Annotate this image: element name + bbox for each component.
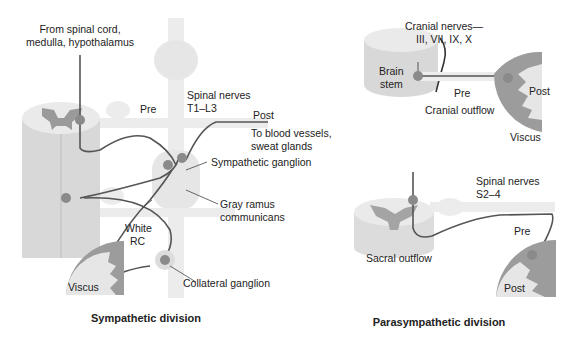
label-post: Post [253,109,274,121]
label-cranial-numbers: III, VII, IX, X [416,33,472,45]
label-rc: RC [130,235,146,247]
sympathetic-division: From spinal cord, medulla, hypothalamus … [22,18,332,324]
ganglion-neuron-1 [177,153,187,163]
label-pre-sacral: Pre [514,225,531,237]
spinal-nerve-band [100,118,268,128]
autonomic-nervous-system-diagram: From spinal cord, medulla, hypothalamus … [0,0,577,339]
parasympathetic-division: Cranial nerves— III, VII, IX, X Brain st… [354,20,556,328]
label-blood-vessels: To blood vessels, [251,127,332,139]
label-pre-cranial: Pre [454,87,471,99]
preganglionic-neuron [75,115,85,125]
label-pre: Pre [140,103,157,115]
label-sympathetic-ganglion: Sympathetic ganglion [211,156,312,168]
label-viscus: Viscus [68,281,99,293]
label-brain: Brain [379,65,404,77]
label-sweat-glands: sweat glands [251,140,312,152]
label-from-spinal-cord-2: medulla, hypothalamus [26,36,134,48]
label-white: White [125,222,152,234]
caption-parasympathetic: Parasympathetic division [373,316,506,328]
label-sacral-outflow: Sacral outflow [366,252,432,264]
label-viscus-cranial: Viscus [510,131,541,143]
label-from-spinal-cord-1: From spinal cord, [39,23,120,35]
lateral-horn-neuron [61,193,71,203]
label-gray-ramus: Gray ramus [220,198,275,210]
label-collateral-ganglion: Collateral ganglion [183,277,270,289]
ganglion-neuron-2 [163,160,173,170]
lower-nerve-band [100,208,235,217]
label-spinal-nerves-sacral: Spinal nerves [476,175,540,187]
spinal-cord [22,102,100,258]
label-post-cranial: Post [529,85,550,97]
label-s2-4: S2–4 [476,188,501,200]
label-spinal-nerves: Spinal nerves [187,89,251,101]
label-cranial-nerves: Cranial nerves— [405,20,484,32]
label-post-sacral: Post [504,282,525,294]
label-communicans: communicans [220,211,285,223]
label-t1-l3: T1–L3 [187,102,217,114]
label-cranial-outflow: Cranial outflow [425,104,495,116]
caption-sympathetic: Sympathetic division [91,312,201,324]
label-stem: stem [380,78,403,90]
